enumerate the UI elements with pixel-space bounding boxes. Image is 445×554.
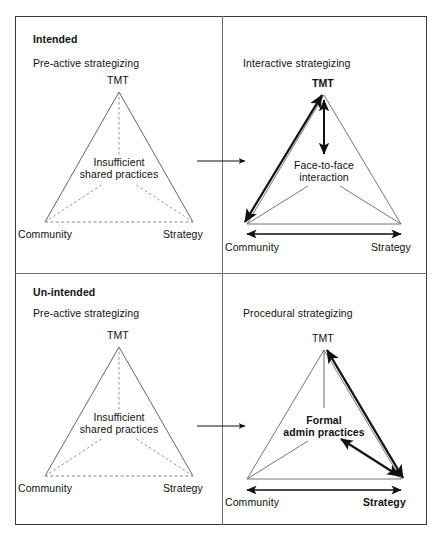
figure-root: Intended Pre-active strategizing TMT Com… — [0, 0, 445, 554]
quadrant-connectors — [0, 0, 445, 554]
